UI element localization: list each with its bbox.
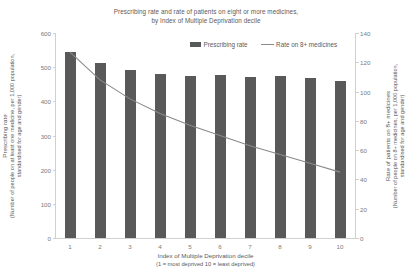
y-axis-right-tick-mark <box>356 150 359 151</box>
y-axis-right-tick-0: 0 <box>360 235 363 242</box>
y-axis-left-tick-600: 600 <box>0 30 51 37</box>
plot-area <box>55 33 355 238</box>
chart-container: Prescribing rate and rate of patients on… <box>0 0 412 278</box>
y-axis-left-title: Prescribing rate (Number of people on at… <box>1 53 24 217</box>
x-axis-tick-10: 10 <box>337 243 344 250</box>
x-axis-tick-1: 1 <box>68 243 71 250</box>
y-axis-right-tick-mark <box>356 179 359 180</box>
y-axis-right-tick-mark <box>356 92 359 93</box>
x-axis-tick-4: 4 <box>158 243 161 250</box>
y-axis-left-tick-0: 0 <box>0 235 51 242</box>
line-series-rate-on-8-plus-medicines <box>55 33 355 238</box>
y-axis-right-tick-60: 60 <box>360 147 367 154</box>
x-axis-tick-9: 9 <box>308 243 311 250</box>
y-axis-right-tick-mark <box>356 209 359 210</box>
x-axis-tick-5: 5 <box>188 243 191 250</box>
y-axis-right-title-line-2: (Number of people on 8+ medicines, per 1… <box>391 63 399 207</box>
y-axis-right-tick-140: 140 <box>360 30 370 37</box>
y-axis-right-tick-80: 80 <box>360 117 367 124</box>
y-axis-left-title-line-3: standardised for age and gender) <box>16 53 24 217</box>
x-axis-title-line-2: (1 = most deprived 10 = least deprived) <box>55 260 356 268</box>
x-axis-title: Index of Multiple Deprivation decile (1 … <box>55 252 356 268</box>
y-axis-right-title: Rate of patients on 8+ medicines (Number… <box>384 63 407 207</box>
y-axis-right-tick-mark <box>356 33 359 34</box>
y-axis-right-tick-mark <box>356 238 359 239</box>
x-axis-tick-3: 3 <box>128 243 131 250</box>
x-axis-tick-7: 7 <box>248 243 251 250</box>
chart-title-line-2: by Index of Multiple Deprivation decile <box>70 17 342 26</box>
y-axis-right-tick-120: 120 <box>360 59 370 66</box>
y-axis-right-title-line-3: standardised for age and gender) <box>399 63 407 207</box>
chart-title-line-1: Prescribing rate and rate of patients on… <box>70 8 342 17</box>
y-axis-left-tick-mark <box>53 238 56 239</box>
x-axis-tick-6: 6 <box>218 243 221 250</box>
y-axis-right-tick-mark <box>356 62 359 63</box>
x-axis-tick-2: 2 <box>98 243 101 250</box>
y-axis-left-title-line-2: (Number of people on at least one medici… <box>8 53 16 217</box>
y-axis-right-tick-40: 40 <box>360 176 367 183</box>
x-axis-tick-8: 8 <box>278 243 281 250</box>
y-axis-right-tick-mark <box>356 121 359 122</box>
y-axis-right-tick-100: 100 <box>360 88 370 95</box>
y-axis-left-title-line-1: Prescribing rate <box>1 53 9 217</box>
y-axis-right-tick-20: 20 <box>360 205 367 212</box>
x-axis-title-line-1: Index of Multiple Deprivation decile <box>55 252 356 260</box>
y-axis-right-title-line-1: Rate of patients on 8+ medicines <box>384 63 392 207</box>
x-axis-line <box>55 238 356 239</box>
chart-title: Prescribing rate and rate of patients on… <box>70 8 342 25</box>
